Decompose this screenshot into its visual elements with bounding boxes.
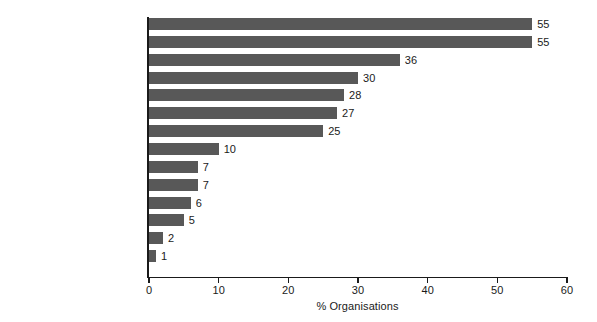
- bar-value-label: 25: [328, 125, 340, 137]
- bar: [149, 18, 532, 30]
- bar: [149, 197, 191, 209]
- bar: [149, 72, 358, 84]
- bar: [149, 125, 323, 137]
- x-tick-mark: [497, 278, 498, 283]
- x-axis-title: % Organisations: [147, 300, 568, 312]
- x-tick-label: 60: [561, 284, 573, 296]
- bar-value-label: 30: [363, 72, 375, 84]
- bar: [149, 232, 163, 244]
- bar-value-label: 27: [342, 107, 354, 119]
- x-tick-mark: [357, 278, 358, 283]
- bar: [149, 250, 156, 262]
- bar: [149, 107, 337, 119]
- bar-value-label: 2: [168, 232, 174, 244]
- plot-area: Economic issues55Development55Democracy …: [0, 0, 597, 322]
- x-tick-mark: [566, 278, 567, 283]
- x-tick-label: 10: [212, 284, 224, 296]
- bar-value-label: 36: [405, 54, 417, 66]
- bar-value-label: 7: [203, 161, 209, 173]
- x-tick-mark: [218, 278, 219, 283]
- x-tick-mark: [148, 278, 149, 283]
- bar: [149, 89, 344, 101]
- bar-value-label: 28: [349, 89, 361, 101]
- bar: [149, 54, 400, 66]
- x-tick-label: 30: [352, 284, 364, 296]
- bar-value-label: 1: [161, 250, 167, 262]
- bar: [149, 179, 198, 191]
- bar-value-label: 55: [537, 18, 549, 30]
- bar-value-label: 6: [196, 197, 202, 209]
- bar-value-label: 55: [537, 36, 549, 48]
- bar-value-label: 5: [189, 214, 195, 226]
- bar-value-label: 7: [203, 179, 209, 191]
- x-tick-label: 0: [146, 284, 152, 296]
- x-tick-mark: [427, 278, 428, 283]
- x-tick-mark: [288, 278, 289, 283]
- bar: [149, 143, 219, 155]
- bar: [149, 36, 532, 48]
- bar-value-label: 10: [224, 143, 236, 155]
- bar: [149, 161, 198, 173]
- bar-chart: Economic issues55Development55Democracy …: [0, 0, 597, 322]
- x-tick-label: 50: [491, 284, 503, 296]
- x-tick-label: 20: [282, 284, 294, 296]
- bar: [149, 214, 184, 226]
- x-tick-label: 40: [421, 284, 433, 296]
